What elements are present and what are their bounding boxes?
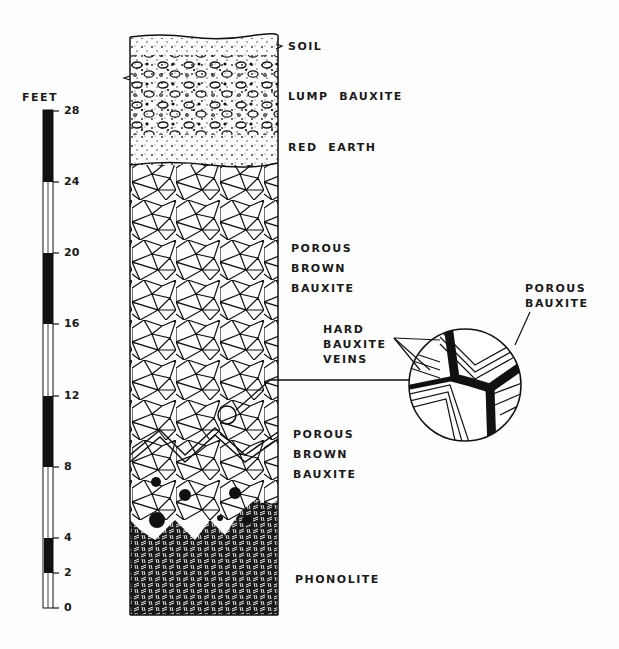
porous-brown-bauxite-layer bbox=[130, 165, 278, 520]
phonolite-label: PHONOLITE bbox=[295, 572, 380, 587]
scale-bar bbox=[43, 110, 59, 608]
red-earth-layer bbox=[130, 135, 278, 165]
soil-label: SOIL bbox=[288, 39, 322, 54]
scale-unit-label: FEET bbox=[22, 90, 58, 105]
vein-detail-inset bbox=[405, 325, 530, 450]
scale-tick-label: 8 bbox=[64, 460, 72, 473]
porous-brown-bauxite-upper-label: POROUS BROWN BAUXITE bbox=[291, 241, 355, 296]
scale-tick-label: 2 bbox=[64, 566, 72, 579]
scale-tick-label: 24 bbox=[64, 175, 79, 188]
scale-black-segment bbox=[43, 396, 53, 467]
stratigraphic-column bbox=[124, 34, 282, 615]
scale-tick-label: 4 bbox=[64, 531, 72, 544]
scale-black-segment bbox=[44, 538, 53, 573]
lump-bauxite-label: LUMP BAUXITE bbox=[288, 89, 403, 104]
scale-tick-label: 0 bbox=[64, 601, 72, 614]
scale-tick-label: 20 bbox=[64, 246, 79, 259]
red-earth-label: RED EARTH bbox=[288, 140, 377, 155]
porous-brown-bauxite-lower-label: POROUS BROWN BAUXITE bbox=[293, 427, 357, 482]
lump-bauxite-layer bbox=[130, 55, 278, 135]
hard-bauxite-veins-label: HARD BAUXITE VEINS bbox=[323, 322, 387, 367]
scale-black-segment bbox=[43, 110, 53, 182]
scale-tick-label: 28 bbox=[64, 104, 79, 117]
scale-black-segment bbox=[43, 253, 53, 324]
porous-bauxite-label: POROUS BAUXITE bbox=[525, 281, 589, 311]
scale-tick-label: 16 bbox=[64, 317, 79, 330]
scale-tick-label: 12 bbox=[64, 389, 79, 402]
